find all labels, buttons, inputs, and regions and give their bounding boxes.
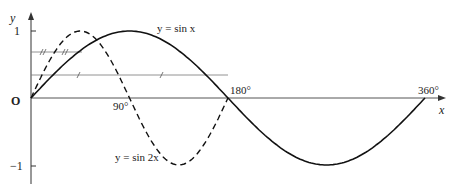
- label-sin-2x: y = sin 2x: [115, 151, 159, 163]
- x-tick-label-90: 90°: [113, 100, 128, 112]
- x-axis-arrow-icon: [438, 95, 446, 101]
- y-tick-label-minus1: −1: [10, 159, 23, 173]
- label-sin-x: y = sin x: [157, 22, 196, 34]
- sine-diagram: y x O 1 −1 90° 180° 360° y = sin x y = s…: [0, 0, 453, 194]
- y-tick-label-1: 1: [14, 24, 20, 38]
- x-tick-label-360: 360°: [418, 84, 439, 96]
- x-tick-label-180: 180°: [230, 84, 251, 96]
- x-axis-label: x: [438, 103, 445, 117]
- y-axis-arrow-icon: [28, 12, 34, 20]
- origin-label: O: [11, 94, 20, 108]
- y-axis-label: y: [9, 11, 16, 25]
